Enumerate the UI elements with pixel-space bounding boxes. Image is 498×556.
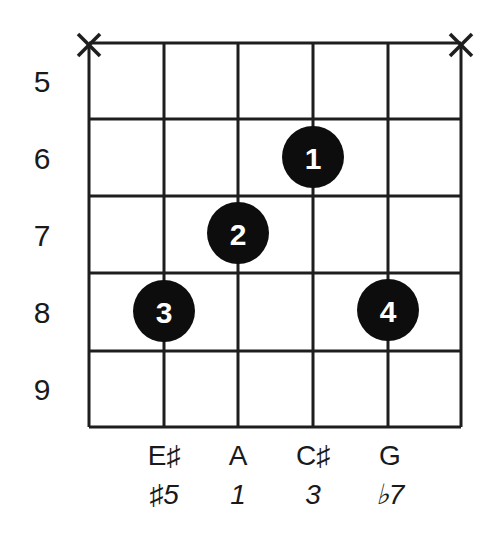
finger-dot-3: 3 xyxy=(133,280,195,342)
finger-dot-2: 2 xyxy=(207,202,269,264)
fretboard-grid xyxy=(89,43,461,427)
muted-string-markers xyxy=(78,34,472,56)
interval-labels: ♯5 1 3 ♭7 xyxy=(149,479,406,510)
note-name: C♯ xyxy=(296,440,330,471)
note-names: E♯ A C♯ G xyxy=(148,440,401,471)
note-name: G xyxy=(379,440,401,471)
finger-dot-4: 4 xyxy=(357,279,419,341)
note-name: A xyxy=(229,440,248,471)
fret-label-8: 8 xyxy=(34,296,51,329)
interval-label: ♯5 xyxy=(149,479,179,510)
finger-number: 4 xyxy=(380,295,397,328)
finger-number: 1 xyxy=(305,142,322,175)
interval-label: 1 xyxy=(230,479,246,510)
fret-label-9: 9 xyxy=(34,373,51,406)
finger-dots: 1 2 3 4 xyxy=(133,126,419,342)
fret-label-7: 7 xyxy=(34,219,51,252)
finger-dot-1: 1 xyxy=(282,126,344,188)
fret-label-5: 5 xyxy=(34,65,51,98)
chord-diagram: 5 6 7 8 9 1 2 3 4 E♯ A C♯ G ♯5 1 3 ♭7 xyxy=(0,0,498,556)
finger-number: 3 xyxy=(156,296,173,329)
interval-label: ♭7 xyxy=(376,479,406,510)
fret-number-labels: 5 6 7 8 9 xyxy=(34,65,51,406)
note-name: E♯ xyxy=(148,440,181,471)
finger-number: 2 xyxy=(230,218,247,251)
interval-label: 3 xyxy=(305,479,321,510)
fret-label-6: 6 xyxy=(34,142,51,175)
